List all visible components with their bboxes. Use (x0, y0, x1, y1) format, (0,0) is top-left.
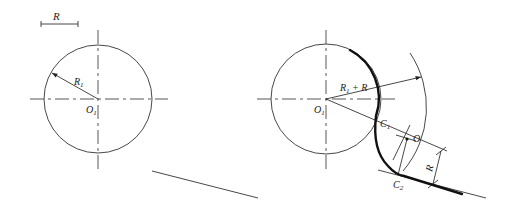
scale-bar: R (41, 10, 78, 27)
radius-r1-label: R1 (73, 76, 84, 89)
arc-tangency-diagram: R R1 O1 R1 + R R (0, 0, 511, 214)
perpendicular-o-c2 (398, 139, 407, 175)
center-o1-label: O1 (86, 104, 97, 117)
right-panel: R1 + R R O1 C1 O C2 (257, 30, 486, 198)
arc-center-point (405, 137, 408, 140)
scale-bar-label: R (52, 10, 60, 22)
construction-tick-2 (393, 125, 410, 160)
left-panel: R1 O1 (30, 30, 168, 170)
given-straight-line (152, 171, 258, 198)
arc-center-o-label: O (413, 133, 420, 144)
result-contour (350, 50, 462, 194)
tangent-point-c2-label: C2 (393, 179, 404, 192)
offset-r-label: R (423, 164, 435, 174)
center-o1-label-right: O1 (314, 104, 325, 117)
tangent-point-c1-label: C1 (380, 118, 390, 131)
construction-arc-r1-plus-r (403, 53, 426, 171)
